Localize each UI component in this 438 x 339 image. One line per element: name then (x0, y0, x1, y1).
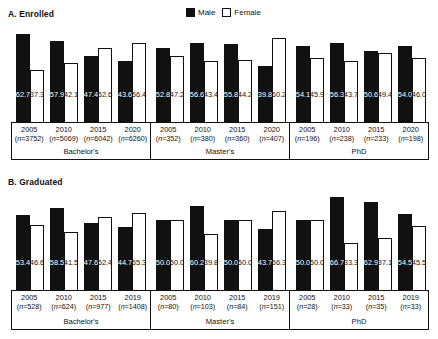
plot-area-graduated: 53.446.658.541.547.652.444.755.350.050.0… (11, 192, 429, 290)
axis-tick: 2010(n=33) (325, 293, 360, 311)
axis-tick-year: 2015 (359, 293, 394, 302)
bar-value-label: 52.4 (98, 259, 112, 266)
bar-value-label: 46.0 (412, 91, 426, 98)
bar-pair: 50.050.0 (153, 192, 187, 290)
bar-pair: 50.050.0 (221, 192, 255, 290)
axis-tick-sample-size: (n=977) (81, 302, 116, 311)
axis-group: 2005(n=3752)2010(n=5069)2015(n=6042)2020… (12, 123, 150, 159)
axis-tick-sample-size: (n=198) (394, 134, 429, 143)
bar-value-label: 60.2 (190, 259, 204, 266)
legend: Male Female (186, 8, 261, 17)
bar-value-label: 42.1 (64, 91, 78, 98)
axis-tick-sample-size: (n=233) (359, 134, 394, 143)
panel-a-title: A. Enrolled (8, 9, 54, 19)
axis-tick: 2020(n=6260) (116, 125, 151, 143)
bar-male: 39.8 (258, 66, 272, 122)
bar-female: 52.4 (98, 217, 112, 290)
bar-value-label: 54.0 (398, 91, 412, 98)
chart-page: A. Enrolled Male Female 62.737.357.942.1… (0, 0, 438, 339)
axis-tick-year: 2005 (290, 293, 325, 302)
bar-male: 53.4 (16, 215, 30, 290)
axis-tick-sample-size: (n=28) (290, 302, 325, 311)
axis-tick-year: 2010 (47, 125, 82, 134)
axis-group: 2005(n=28)2010(n=33)2015(n=35)2019(n=33)… (289, 291, 428, 329)
bar-value-label: 54.5 (398, 259, 412, 266)
axis-tick: 2015(n=233) (359, 125, 394, 143)
bar-value-label: 49.4 (378, 91, 392, 98)
bar-female: 37.3 (30, 70, 44, 122)
bar-male: 43.7 (258, 229, 272, 290)
axis-tick-year: 2010 (47, 293, 82, 302)
axis-tick-sample-size: (n=407) (255, 134, 290, 143)
bar-female: 50.0 (170, 220, 184, 290)
bar-value-label: 56.3 (330, 91, 344, 98)
axis-tick-year: 2019 (116, 293, 151, 302)
legend-swatch-female-icon (222, 8, 231, 17)
bar-male: 56.3 (330, 43, 344, 122)
bar-value-label: 55.3 (132, 259, 146, 266)
bar-value-label: 44.2 (238, 91, 252, 98)
axis-ticks: 2005(n=80)2010(n=103)2015(n=84)2019(n=15… (151, 291, 289, 318)
bar-group-phd: 50.050.066.733.362.937.154.545.5 (291, 192, 431, 290)
legend-label-male: Male (198, 9, 215, 17)
axis-tick-year: 2015 (81, 293, 116, 302)
bar-value-label: 56.3 (272, 259, 286, 266)
bar-value-label: 66.7 (330, 259, 344, 266)
legend-swatch-male-icon (186, 8, 195, 17)
bar-value-label: 55.8 (224, 91, 238, 98)
bar-male: 66.7 (330, 197, 344, 290)
bar-pair: 47.452.6 (81, 24, 115, 122)
bar-female: 41.5 (64, 232, 78, 290)
bar-value-label: 47.2 (170, 91, 184, 98)
axis-tick: 2010(n=624) (47, 293, 82, 311)
bar-value-label: 43.6 (118, 91, 132, 98)
axis-ticks: 2005(n=3752)2010(n=5069)2015(n=6042)2020… (12, 123, 150, 148)
bar-male: 52.8 (156, 48, 170, 122)
bar-value-label: 62.9 (364, 259, 378, 266)
bar-value-label: 33.3 (344, 259, 358, 266)
bar-male: 50.0 (296, 220, 310, 290)
bar-female: 60.2 (272, 38, 286, 122)
plot-area-enrolled: 62.737.357.942.147.452.643.656.452.847.2… (11, 24, 429, 122)
axis-tick-sample-size: (n=6260) (116, 134, 151, 143)
axis-tick-year: 2019 (255, 293, 290, 302)
axis-tick-sample-size: (n=33) (325, 302, 360, 311)
axis-tick: 2019(n=33) (394, 293, 429, 311)
bar-pair: 50.649.4 (361, 24, 395, 122)
axis-tick-year: 2020 (394, 125, 429, 134)
panel-graduated: B. Graduated 53.446.658.541.547.652.444.… (0, 168, 438, 339)
axis-tick-sample-size: (n=196) (290, 134, 325, 143)
bar-value-label: 50.0 (296, 259, 310, 266)
bar-value-label: 47.6 (84, 259, 98, 266)
bar-male: 54.5 (398, 214, 412, 290)
bar-male: 62.7 (16, 34, 30, 122)
bar-female: 42.1 (64, 63, 78, 122)
axis-tick-sample-size: (n=3752) (12, 134, 47, 143)
bar-value-label: 50.0 (310, 259, 324, 266)
bar-value-label: 56.6 (190, 91, 204, 98)
axis-tick: 2010(n=5069) (47, 125, 82, 143)
bar-female: 49.4 (378, 53, 392, 122)
axis-ticks: 2005(n=196)2010(n=238)2015(n=233)2020(n=… (290, 123, 428, 148)
axis-group-label: Master's (151, 318, 289, 329)
axis-tick-year: 2005 (151, 293, 186, 302)
axis-tick-sample-size: (n=84) (220, 302, 255, 311)
bar-value-label: 37.3 (30, 91, 44, 98)
axis-tick-year: 2015 (220, 293, 255, 302)
bar-value-label: 43.4 (204, 91, 218, 98)
axis-tick: 2015(n=84) (220, 293, 255, 311)
axis-tick-year: 2019 (394, 293, 429, 302)
bar-female: 55.3 (132, 213, 146, 290)
bar-pair: 54.145.9 (293, 24, 327, 122)
bar-value-label: 53.4 (16, 259, 30, 266)
bar-group-bachelors: 62.737.357.942.147.452.643.656.4 (11, 24, 151, 122)
bar-male: 58.5 (50, 208, 64, 290)
axis-ticks: 2005(n=28)2010(n=33)2015(n=35)2019(n=33) (290, 291, 428, 318)
bar-value-label: 52.8 (156, 91, 170, 98)
bar-female: 45.5 (412, 226, 426, 290)
bar-pair: 44.755.3 (115, 192, 149, 290)
bar-female: 50.0 (238, 220, 252, 290)
bar-group-bachelors: 53.446.658.541.547.652.444.755.3 (11, 192, 151, 290)
axis-tick-sample-size: (n=624) (47, 302, 82, 311)
bar-value-label: 50.0 (156, 259, 170, 266)
